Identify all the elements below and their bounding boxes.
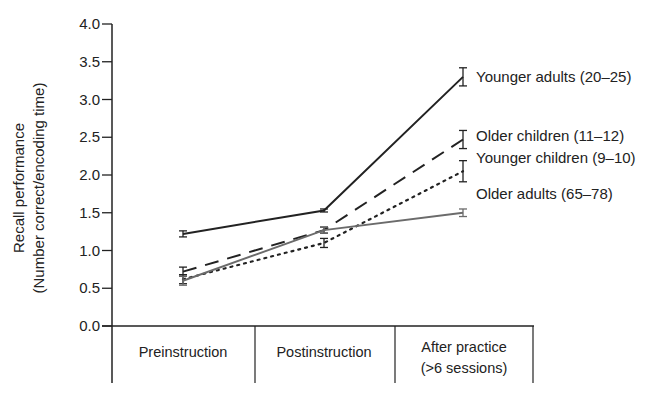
y-axis-title: Recall performance (Number correct/encod… — [10, 83, 47, 294]
y-tick-label: 3.0 — [79, 91, 100, 108]
series-line — [183, 213, 463, 281]
x-category-label: Postinstruction — [276, 344, 371, 360]
series-label: Younger children (9–10) — [476, 149, 636, 166]
x-category-label: Preinstruction — [139, 344, 228, 360]
x-categories: PreinstructionPostinstructionAfter pract… — [139, 339, 508, 376]
series-line — [183, 171, 463, 279]
series-line — [183, 140, 463, 272]
y-tick-label: 0.5 — [79, 279, 100, 296]
x-category-sublabel: (>6 sessions) — [421, 360, 508, 376]
series-label: Older children (11–12) — [476, 127, 624, 144]
y-axis-sublabel: (Number correct/encoding time) — [30, 83, 47, 294]
y-tick-label: 2.0 — [79, 166, 100, 183]
y-tick-label: 2.5 — [79, 128, 100, 145]
series-group: Younger adults (20–25)Older children (11… — [179, 68, 636, 285]
y-ticks: 0.00.51.01.52.02.53.03.54.0 — [79, 15, 112, 334]
y-tick-label: 3.5 — [79, 53, 100, 70]
series-3: Older adults (65–78) — [179, 185, 613, 285]
y-tick-label: 1.0 — [79, 242, 100, 259]
series-label: Older adults (65–78) — [476, 185, 613, 202]
y-axis-label: Recall performance — [10, 123, 27, 253]
series-line — [183, 77, 463, 234]
y-tick-label: 4.0 — [79, 15, 100, 32]
axes — [102, 24, 534, 383]
y-tick-label: 0.0 — [79, 317, 100, 334]
series-label: Younger adults (20–25) — [476, 68, 631, 85]
x-category-label: After practice — [421, 339, 506, 355]
y-tick-label: 1.5 — [79, 204, 100, 221]
line-chart: Recall performance (Number correct/encod… — [0, 0, 661, 395]
series-2: Younger children (9–10) — [179, 149, 636, 284]
